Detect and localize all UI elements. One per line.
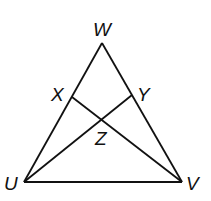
segment-xv (72, 97, 182, 182)
label-w: W (93, 19, 113, 40)
segment-uy (24, 95, 132, 182)
label-z: Z (94, 128, 108, 149)
label-y: Y (137, 84, 151, 105)
label-v: V (186, 173, 201, 194)
segment-uw (24, 43, 102, 182)
triangle-diagram: W X Y Z U V (0, 0, 211, 201)
segment-wv (102, 43, 182, 182)
label-x: X (50, 84, 65, 105)
label-u: U (4, 173, 18, 194)
